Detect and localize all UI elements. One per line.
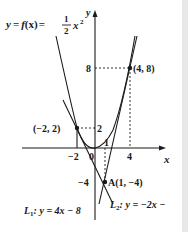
fraction-numerator: 1 [64,14,69,24]
x-tick-1: 1 [104,137,109,148]
page-edge [182,0,188,232]
L1-equation: L1: y = 4x − 8 [23,205,81,218]
origin-label: 0 [89,151,94,162]
function-exp: 2 [80,18,84,26]
x-axis-arrow-icon [159,146,166,151]
x-tick-4: 4 [127,151,132,162]
function-diagram: y=f(x)= 1 2 x 2 y x 0 −2 4 1 8 2 −4 (−2,… [0,0,188,232]
point-label-4-8: (4, 8) [133,63,155,75]
L2-equation: L2: y = −2x − [109,199,165,212]
point-4-8 [128,66,132,70]
fraction-denominator: 2 [64,26,69,36]
y-tick-2: 2 [97,123,102,134]
function-label: y=f(x)= [4,18,45,31]
point-A [103,180,107,184]
x-tick-neg2: −2 [68,151,79,162]
y-tick-neg4: −4 [78,177,89,188]
x-axis-label: x [163,153,170,165]
point-label-A: A(1, −4) [108,177,143,189]
point-neg2-2 [75,126,79,130]
y-axis-label: y [85,7,91,18]
y-axis-arrow-icon [93,10,98,17]
function-var: x [72,19,79,31]
point-label-neg2-2: (−2, 2) [33,123,60,135]
y-tick-8: 8 [86,63,91,74]
